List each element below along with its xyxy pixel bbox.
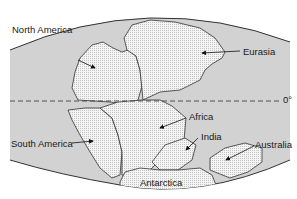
label-india: India [201, 132, 222, 142]
label-antarctica: Antarctica [140, 178, 182, 188]
label-south-america: South America [11, 139, 73, 149]
label-africa: Africa [189, 112, 213, 122]
label-eurasia: Eurasia [243, 47, 275, 57]
equator-label: 0° [283, 95, 292, 105]
label-australia: Australia [255, 140, 292, 150]
label-north-america: North America [12, 25, 72, 35]
